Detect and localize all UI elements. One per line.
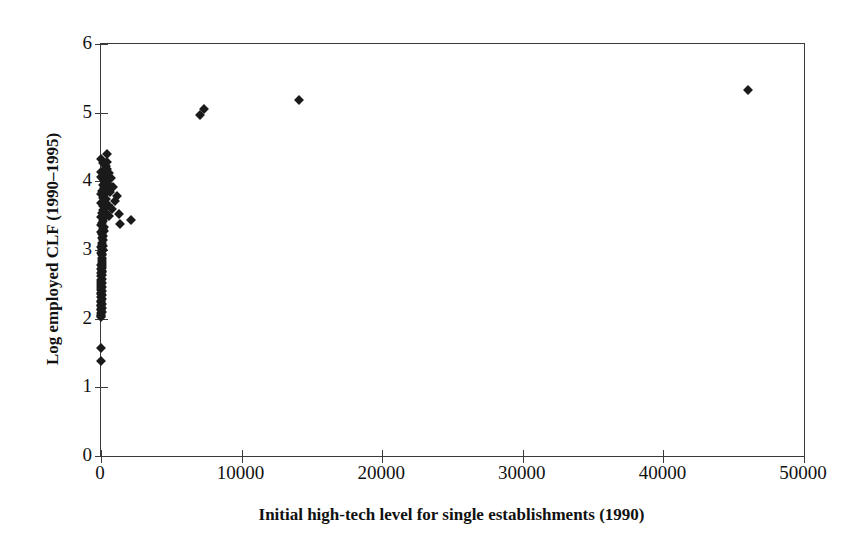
data-point-marker xyxy=(115,219,125,229)
x-tick-label: 20000 xyxy=(336,463,426,482)
data-point-marker xyxy=(96,356,106,366)
data-point-marker xyxy=(114,209,124,219)
x-tick-label: 40000 xyxy=(617,463,707,482)
plot-area xyxy=(100,43,805,457)
y-tick-mark xyxy=(95,387,108,388)
x-tick-label: 10000 xyxy=(196,463,286,482)
x-axis-title: Initial high-tech level for single estab… xyxy=(100,505,803,525)
data-point-marker xyxy=(743,85,753,95)
data-point-marker xyxy=(126,215,136,225)
x-tick-label: 50000 xyxy=(758,463,848,482)
y-axis-title-text: Log employed CLF (1990–1995) xyxy=(43,133,63,365)
x-tick-mark xyxy=(242,450,243,463)
scatter-chart-figure: Log employed CLF (1990–1995) 01234560100… xyxy=(0,0,859,559)
x-tick-label: 30000 xyxy=(477,463,567,482)
data-point-marker xyxy=(294,95,304,105)
x-tick-mark xyxy=(804,450,805,463)
x-tick-mark xyxy=(523,450,524,463)
y-axis-title: Log employed CLF (1990–1995) xyxy=(36,43,70,455)
x-tick-label: 0 xyxy=(55,463,145,482)
x-tick-mark xyxy=(101,450,102,463)
x-tick-mark xyxy=(663,450,664,463)
y-tick-mark xyxy=(95,113,108,114)
x-tick-mark xyxy=(382,450,383,463)
y-tick-mark xyxy=(95,44,108,45)
data-point-marker xyxy=(96,343,106,353)
